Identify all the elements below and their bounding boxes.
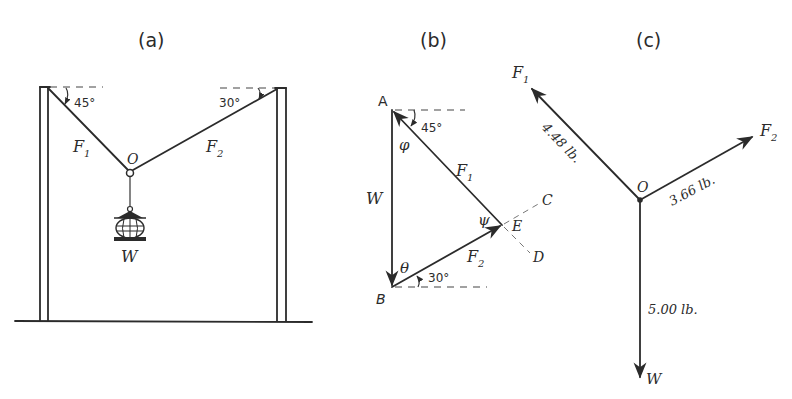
- label-origin-o: O: [637, 179, 649, 195]
- angle-psi: ψ: [478, 211, 490, 229]
- vector-f1: [532, 89, 640, 200]
- point-a: A: [378, 93, 388, 109]
- panel-c: (c) O F1 F2 W 4.48 lb. 3.66 lb. 5.00 lb.: [511, 29, 777, 388]
- angle-arc-30: [258, 88, 260, 99]
- label-f1: F1: [511, 63, 529, 85]
- point-b: B: [376, 291, 386, 307]
- label-weight-w: W: [121, 247, 139, 266]
- angle-phi: φ: [399, 136, 410, 154]
- magnitude-w: 5.00 lb.: [648, 302, 698, 317]
- cable-f2: [133, 89, 277, 170]
- lantern-weight-icon: [114, 207, 146, 242]
- panel-c-title: (c): [636, 29, 661, 51]
- panel-b: (b) A B C D E W F1 F2 φ θ ψ 45° 30°: [366, 29, 553, 307]
- label-w: W: [366, 189, 384, 208]
- label-f2: F2: [205, 137, 223, 159]
- vector-f1: [394, 112, 502, 225]
- angle-arc-45: [411, 110, 415, 126]
- angle-label-30: 30°: [428, 271, 449, 285]
- point-c: C: [542, 192, 553, 208]
- origin-point: [637, 197, 643, 203]
- label-f1: F1: [455, 161, 473, 183]
- point-d: D: [532, 249, 544, 265]
- panel-a-title: (a): [138, 29, 164, 51]
- label-w: W: [646, 370, 663, 388]
- panel-b-title: (b): [420, 29, 447, 51]
- ground-line: [15, 321, 312, 322]
- angle-label-45: 45°: [74, 96, 95, 110]
- label-f2: F2: [759, 121, 777, 143]
- label-origin-o: O: [127, 151, 139, 167]
- magnitude-f1: 4.48 lb.: [538, 119, 584, 166]
- ring-icon: [127, 170, 134, 177]
- angle-theta: θ: [400, 259, 409, 277]
- angle-label-30: 30°: [219, 96, 240, 110]
- left-post: [40, 87, 50, 321]
- angle-arc-45: [65, 88, 68, 104]
- label-f1: F1: [72, 137, 90, 159]
- panel-a: (a) 45° 30° F1 F2 O: [15, 29, 312, 322]
- right-post: [275, 88, 286, 321]
- angle-label-45: 45°: [421, 121, 442, 135]
- magnitude-f2: 3.66 lb.: [666, 172, 717, 209]
- point-e: E: [511, 218, 522, 234]
- label-f2: F2: [466, 247, 484, 269]
- angle-arc-30: [417, 276, 419, 287]
